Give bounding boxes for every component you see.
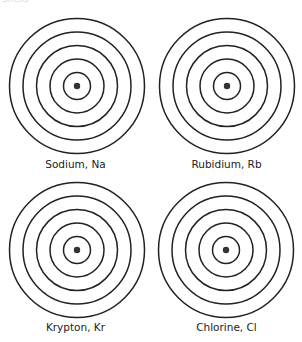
nucleus-icon [74, 247, 80, 253]
atom-label: Rubidium, Rb [151, 158, 302, 170]
atom-label: Krypton, Kr [0, 321, 151, 333]
atom-shells-icon [0, 171, 151, 342]
atom-diagram-rubidium: Rubidium, Rb [151, 0, 302, 171]
atom-label: Chlorine, Cl [151, 321, 302, 333]
atom-shells-icon [151, 0, 302, 171]
atom-shells-icon [0, 0, 151, 171]
atom-diagram-krypton: Krypton, Kr [0, 171, 151, 342]
nucleus-icon [223, 247, 229, 253]
atom-diagram-sodium: Sodium, Na [0, 0, 151, 171]
atom-diagram-chlorine: Chlorine, Cl [151, 171, 302, 342]
atom-label: Sodium, Na [0, 158, 151, 170]
atom-shells-icon [151, 171, 302, 342]
nucleus-icon [224, 83, 230, 89]
nucleus-icon [74, 83, 80, 89]
